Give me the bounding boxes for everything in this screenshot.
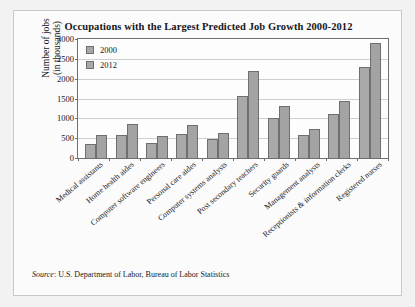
x-axis-tick-mark bbox=[264, 158, 265, 161]
bar bbox=[146, 143, 157, 158]
y-axis-tick-label: 3000 bbox=[57, 34, 74, 44]
x-axis-ticks bbox=[78, 158, 388, 161]
bar-group bbox=[203, 39, 233, 158]
x-axis-tick-mark bbox=[109, 158, 110, 161]
figure-frame: Occupations with the Largest Predicted J… bbox=[13, 10, 402, 296]
bar-groups bbox=[78, 39, 388, 158]
y-axis-tick-label: 2500 bbox=[57, 54, 74, 64]
bar bbox=[85, 144, 96, 158]
bar-group bbox=[294, 39, 324, 158]
chart-title: Occupations with the Largest Predicted J… bbox=[14, 21, 403, 32]
bar bbox=[176, 134, 187, 158]
legend-swatch-icon bbox=[86, 61, 94, 69]
x-axis-tick-mark bbox=[357, 158, 358, 161]
legend-label: 2012 bbox=[100, 60, 117, 70]
x-axis-tick-mark bbox=[202, 158, 203, 161]
bar bbox=[370, 43, 381, 158]
legend-item-2012: 2012 bbox=[86, 60, 117, 70]
legend-item-2000: 2000 bbox=[86, 45, 117, 55]
y-axis-tick-label: 500 bbox=[61, 133, 74, 143]
x-axis-tick-mark bbox=[233, 158, 234, 161]
bar bbox=[207, 139, 218, 158]
bar bbox=[187, 125, 198, 158]
bar bbox=[237, 96, 248, 158]
bar bbox=[279, 106, 290, 158]
x-axis-tick-mark bbox=[295, 158, 296, 161]
x-axis-tick-mark bbox=[326, 158, 327, 161]
bar bbox=[298, 135, 309, 158]
bar-group bbox=[355, 39, 385, 158]
legend-swatch-icon bbox=[86, 46, 94, 54]
y-axis-tick-label: 1500 bbox=[57, 94, 74, 104]
source-label: Source bbox=[32, 270, 54, 279]
bar bbox=[359, 67, 370, 158]
y-axis-tick-label: 2000 bbox=[57, 74, 74, 84]
bar bbox=[157, 136, 168, 158]
bar-group bbox=[233, 39, 263, 158]
chart-page: Occupations with the Largest Predicted J… bbox=[0, 0, 415, 307]
x-axis-tick-mark bbox=[388, 158, 389, 161]
bar bbox=[339, 101, 350, 158]
x-axis-tick-mark bbox=[171, 158, 172, 161]
bar-group bbox=[142, 39, 172, 158]
bar bbox=[218, 133, 229, 158]
y-axis-tick-label: 1000 bbox=[57, 113, 74, 123]
bar bbox=[248, 71, 259, 158]
legend: 2000 2012 bbox=[86, 45, 117, 75]
plot-area: 050010001500200025003000 2000 2012 bbox=[77, 38, 389, 159]
x-axis-tick-mark bbox=[78, 158, 79, 161]
bar bbox=[268, 118, 279, 158]
bar bbox=[328, 114, 339, 158]
bar bbox=[309, 129, 320, 158]
x-axis-tick-mark bbox=[140, 158, 141, 161]
source-text: : U.S. Department of Labor, Bureau of La… bbox=[54, 270, 229, 279]
source-note: Source: U.S. Department of Labor, Bureau… bbox=[32, 270, 229, 279]
y-axis-tick-label: 0 bbox=[70, 153, 74, 163]
bar bbox=[116, 135, 127, 158]
legend-label: 2000 bbox=[100, 45, 117, 55]
bar bbox=[127, 124, 138, 158]
bar-group bbox=[172, 39, 202, 158]
bar bbox=[96, 135, 107, 158]
bar-group bbox=[324, 39, 354, 158]
bar-group bbox=[263, 39, 293, 158]
